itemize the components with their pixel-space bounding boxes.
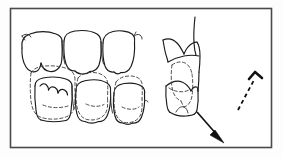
figure-container — [0, 0, 283, 159]
figure-frame — [11, 9, 272, 148]
dental-diagram-svg — [0, 0, 283, 159]
